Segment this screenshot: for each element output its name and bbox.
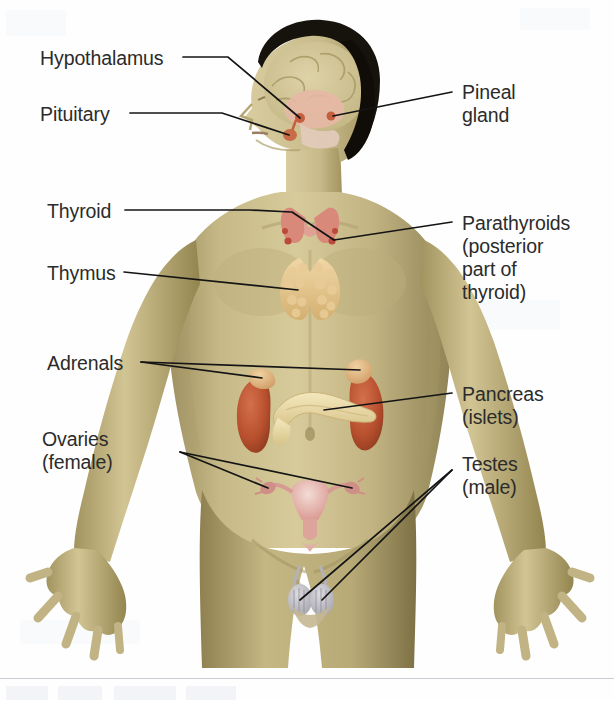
- clipped-caption-ghost: [6, 686, 236, 700]
- bottom-divider: [0, 678, 614, 679]
- label-testes: Testes (male): [462, 453, 518, 499]
- gland-parathyroid: [332, 228, 338, 234]
- label-ovaries: Ovaries (female): [42, 428, 113, 474]
- label-thymus: Thymus: [47, 262, 116, 285]
- label-adrenals: Adrenals: [47, 352, 123, 375]
- label-pituitary: Pituitary: [40, 103, 110, 126]
- gland-parathyroid: [282, 228, 288, 234]
- gland-parathyroid: [284, 237, 291, 244]
- label-thyroid: Thyroid: [47, 200, 111, 223]
- endocrine-diagram-page: Hypothalamus Pituitary Thyroid Thymus Ad…: [0, 0, 614, 701]
- label-parathyroids: Parathyroids (posterior part of thyroid): [462, 212, 570, 304]
- label-pineal-gland: Pineal gland: [462, 81, 516, 127]
- head: [241, 20, 380, 162]
- label-pancreas: Pancreas (islets): [462, 383, 544, 429]
- gland-pituitary-body: [283, 129, 297, 141]
- label-hypothalamus: Hypothalamus: [40, 47, 163, 70]
